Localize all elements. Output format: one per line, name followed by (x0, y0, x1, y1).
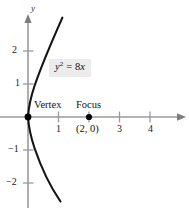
y-tick-label-minus-2: −2 (6, 177, 17, 187)
y-axis-label: y (31, 4, 35, 13)
x-tick-label-4: 4 (148, 124, 153, 134)
y-axis-arrow-icon (24, 14, 31, 23)
y-tick-label-1: 1 (15, 78, 20, 88)
focus-label: Focus (76, 100, 101, 111)
parabola-figure: y 2 1 −1 −2 1 3 4 Vertex Focus (2, 0) y2… (0, 0, 189, 208)
x-tick-label-3: 3 (117, 124, 122, 134)
equation-equals-sign: = (63, 61, 75, 72)
y-tick-label-minus-1: −1 (8, 144, 19, 154)
focus-point (86, 114, 92, 120)
vertex-label: Vertex (34, 100, 61, 111)
focus-coordinates-label: (2, 0) (76, 124, 99, 135)
vertex-point (25, 114, 32, 121)
x-tick-label-1: 1 (56, 124, 61, 134)
x-axis-arrow-icon (177, 113, 186, 121)
equation-rhs-variable: x (80, 61, 85, 72)
y-tick-label-2: 2 (12, 45, 17, 55)
equation-label: y2=8x (49, 59, 91, 77)
